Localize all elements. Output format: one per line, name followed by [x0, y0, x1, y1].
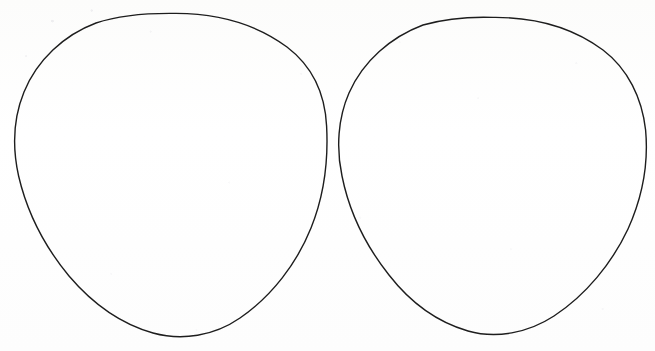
left-circle-outline [15, 13, 327, 336]
scanned-page-canvas [0, 0, 655, 351]
right-circle-outline [339, 17, 647, 334]
hand-drawn-circles-figure [0, 0, 655, 351]
